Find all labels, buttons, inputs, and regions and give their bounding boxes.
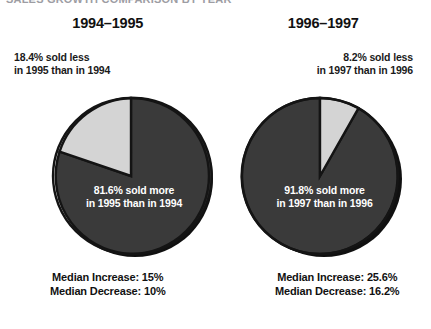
median-increase-1994-1995: Median Increase: 15% [0,270,216,284]
median-decrease-1996-1997: Median Decrease: 16.2% [230,284,431,298]
callout-line-2: in 1997 than in 1996 [317,64,413,77]
median-decrease-1994-1995: Median Decrease: 10% [0,284,216,298]
stats-1996-1997: Median Increase: 25.6% Median Decrease: … [216,270,431,298]
callout-line-2: in 1995 than in 1994 [14,64,110,77]
stats-1994-1995: Median Increase: 15% Median Decrease: 10… [0,270,222,298]
pie-chart-1996-1997: 91.8% sold more in 1997 than in 1996 [238,92,404,258]
chart-panel-1994-1995: 1994–1995 18.4% sold less in 1995 than i… [0,0,216,329]
pie-chart-1994-1995: 81.6% sold more in 1995 than in 1994 [49,92,215,258]
callout-line-1: 18.4% sold less [14,51,110,64]
callout-line-1: 8.2% sold less [317,51,413,64]
median-increase-1996-1997: Median Increase: 25.6% [230,270,431,284]
pie-svg-1994-1995 [49,92,215,258]
pie-svg-1996-1997 [238,92,404,258]
chart-title-1996-1997: 1996–1997 [216,15,431,31]
callout-1996-1997: 8.2% sold less in 1997 than in 1996 [317,51,413,76]
pie-chart-pair: 1994–1995 18.4% sold less in 1995 than i… [0,0,431,329]
chart-title-1994-1995: 1994–1995 [0,15,216,31]
chart-panel-1996-1997: 1996–1997 8.2% sold less in 1997 than in… [216,0,431,329]
callout-1994-1995: 18.4% sold less in 1995 than in 1994 [14,51,110,76]
